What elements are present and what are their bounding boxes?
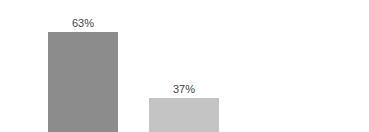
bar-value-label-2: 37% [149,83,219,95]
bar-1 [48,32,118,132]
bar-value-label-1: 63% [48,17,118,29]
bar-2 [149,98,219,132]
